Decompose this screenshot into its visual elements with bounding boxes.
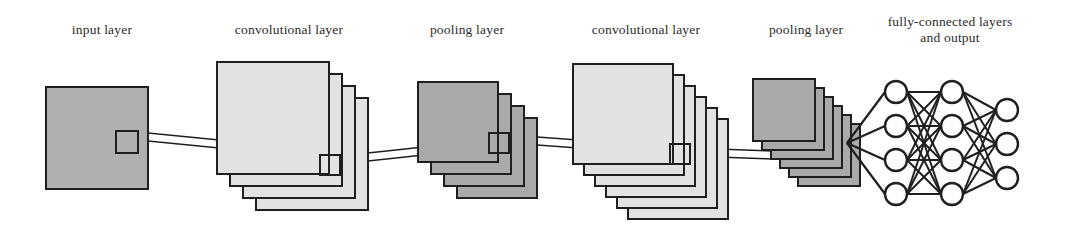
fc-hidden-2-node-2 [941, 149, 963, 171]
label-input-layer: input layer [72, 22, 133, 37]
fc-hidden-1-node-2 [885, 149, 907, 171]
label-fc-layers-line-1: and output [920, 30, 979, 45]
label-pool-layer-1-line-0: pooling layer [430, 22, 505, 37]
label-conv-layer-2: convolutional layer [592, 22, 701, 37]
pool-layer-2-plane-0 [753, 79, 815, 141]
fc-hidden-2-node-1 [941, 115, 963, 137]
label-pool-layer-2: pooling layer [769, 22, 844, 37]
input-layer [46, 87, 148, 189]
fc-hidden-2-node-0 [941, 81, 963, 103]
conv-layer-2-plane-0 [573, 64, 673, 164]
cnn-diagram-canvas: input layerconvolutional layerpooling la… [0, 0, 1067, 227]
fc-hidden-1-node-1 [885, 115, 907, 137]
conv-layer-1-plane-0 [217, 62, 329, 174]
label-pool-layer-2-line-0: pooling layer [769, 22, 844, 37]
label-fc-layers-line-0: fully-connected layers [888, 14, 1013, 29]
input-layer-plane-0 [46, 87, 148, 189]
fc-hidden-1-node-3 [885, 183, 907, 205]
label-conv-layer-2-line-0: convolutional layer [592, 22, 701, 37]
pool-layer-1-plane-0 [418, 82, 498, 162]
label-conv-layer-1: convolutional layer [235, 22, 344, 37]
label-conv-layer-1-line-0: convolutional layer [235, 22, 344, 37]
label-pool-layer-1: pooling layer [430, 22, 505, 37]
fc-hidden-1-node-0 [885, 81, 907, 103]
cnn-architecture-diagram: input layerconvolutional layerpooling la… [0, 0, 1067, 227]
fc-output-node-2 [996, 167, 1018, 189]
fc-output-node-0 [996, 99, 1018, 121]
fc-output-node-1 [996, 133, 1018, 155]
label-input-layer-line-0: input layer [72, 22, 133, 37]
fc-output-nodes [996, 99, 1018, 189]
fc-hidden-2-node-3 [941, 183, 963, 205]
